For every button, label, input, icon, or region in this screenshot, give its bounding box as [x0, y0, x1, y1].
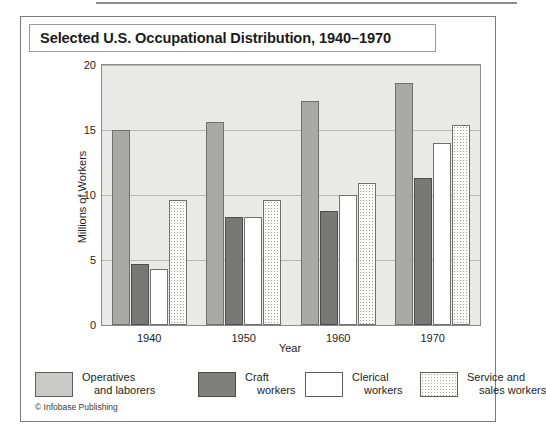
bar	[320, 211, 338, 325]
legend-swatch	[35, 372, 73, 397]
bar	[263, 200, 281, 325]
y-axis-tick-label: 20	[84, 59, 96, 71]
page-top-rule	[96, 2, 517, 4]
legend-label: Craftworkers	[245, 371, 296, 397]
bar	[414, 178, 432, 325]
bar-group: 1940	[102, 65, 197, 325]
y-axis-tick-label: 10	[84, 189, 96, 201]
bar	[206, 122, 224, 325]
legend-item[interactable]: Craftworkers	[198, 367, 296, 401]
legend-swatch	[420, 372, 458, 397]
bar	[301, 101, 319, 325]
bar	[169, 200, 187, 325]
chart-title: Selected U.S. Occupational Distribution,…	[30, 30, 391, 46]
plot-area: 05101520 1940195019601970	[101, 64, 481, 326]
bar	[150, 269, 168, 325]
x-axis-title: Year	[101, 342, 479, 354]
plot-wrapper: Millions of Workers 05101520 19401950196…	[80, 64, 479, 329]
bar-group: 1960	[291, 65, 386, 325]
copyright-notice: © Infobase Publishing	[35, 402, 118, 412]
bar	[225, 217, 243, 325]
y-axis-tick-label: 0	[90, 319, 96, 331]
chart-legend: Operativesand laborersCraftworkersCleric…	[35, 367, 481, 401]
chart-title-box: Selected U.S. Occupational Distribution,…	[29, 24, 436, 52]
bar	[358, 183, 376, 325]
bar-group: 1950	[197, 65, 292, 325]
legend-swatch	[305, 372, 343, 397]
bar	[395, 83, 413, 325]
legend-item[interactable]: Operativesand laborers	[35, 367, 155, 401]
legend-item[interactable]: Service andsales workers	[420, 367, 546, 401]
bar	[452, 125, 470, 325]
bar	[131, 264, 149, 325]
bar	[244, 217, 262, 325]
legend-label: Operativesand laborers	[82, 371, 155, 397]
legend-swatch	[198, 372, 236, 397]
figure-frame: Selected U.S. Occupational Distribution,…	[20, 16, 496, 422]
legend-label: Service andsales workers	[467, 371, 546, 397]
y-axis-tick-label: 5	[90, 254, 96, 266]
y-axis-tick-label: 15	[84, 124, 96, 136]
bar	[339, 195, 357, 325]
bar	[433, 143, 451, 325]
legend-label: Clericalworkers	[352, 371, 403, 397]
bar	[112, 130, 130, 325]
legend-item[interactable]: Clericalworkers	[305, 367, 403, 401]
bar-group: 1970	[386, 65, 481, 325]
